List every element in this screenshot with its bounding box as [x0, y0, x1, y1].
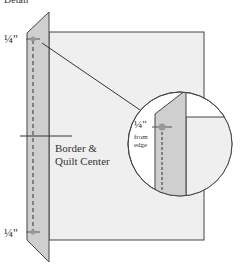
- detail-note-line2: edge: [134, 141, 147, 149]
- border-strip: [27, 12, 49, 262]
- detail-quarter-inch-label: ¼": [134, 118, 147, 130]
- bottom-pin-dot: [31, 230, 36, 235]
- bottom-quarter-inch-label: ¼": [4, 226, 18, 240]
- border-pinning-diagram: Detail ¼" ¼" Border & Quil: [0, 0, 244, 269]
- top-pin-dot: [31, 37, 36, 42]
- detail-pin-dot: [159, 124, 166, 131]
- diagram-canvas: Detail ¼" ¼" Border & Quil: [0, 0, 244, 269]
- top-quarter-inch-label: ¼": [4, 32, 18, 46]
- detail-note-line1: from: [134, 133, 148, 141]
- title-fragment: Detail: [4, 0, 29, 5]
- center-label-line2: Quilt Center: [55, 155, 110, 167]
- center-label-line1: Border &: [55, 142, 97, 154]
